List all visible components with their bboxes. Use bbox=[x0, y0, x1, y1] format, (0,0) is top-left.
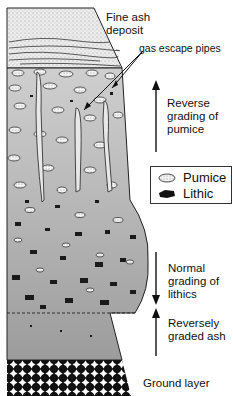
gas-escape-pipes-label: gas escape pipes bbox=[139, 42, 221, 55]
pumice-clast-icon bbox=[157, 172, 177, 184]
reversely-graded-ash-label: Reversely graded ash bbox=[168, 317, 226, 343]
legend: Pumice Lithic bbox=[150, 166, 232, 204]
legend-item-lithic: Lithic bbox=[157, 186, 213, 201]
reversely-graded-ash-arrow bbox=[152, 308, 160, 356]
normal-lithics-arrow bbox=[152, 252, 160, 305]
reverse-pumice-arrow bbox=[152, 80, 160, 152]
legend-item-pumice: Pumice bbox=[157, 170, 226, 185]
fine-ash-layer bbox=[7, 8, 122, 68]
lithic-clast-icon bbox=[157, 188, 177, 200]
legend-label-pumice: Pumice bbox=[183, 170, 226, 185]
reverse-grading-pumice-label: Reverse grading of pumice bbox=[167, 97, 218, 136]
legend-label-lithic: Lithic bbox=[183, 186, 213, 201]
ground-layer bbox=[7, 360, 131, 396]
ground-layer-label: Ground layer bbox=[143, 377, 209, 390]
normal-grading-lithics-label: Normal grading of lithics bbox=[168, 262, 219, 301]
fine-ash-label: Fine ash deposit bbox=[106, 11, 150, 37]
